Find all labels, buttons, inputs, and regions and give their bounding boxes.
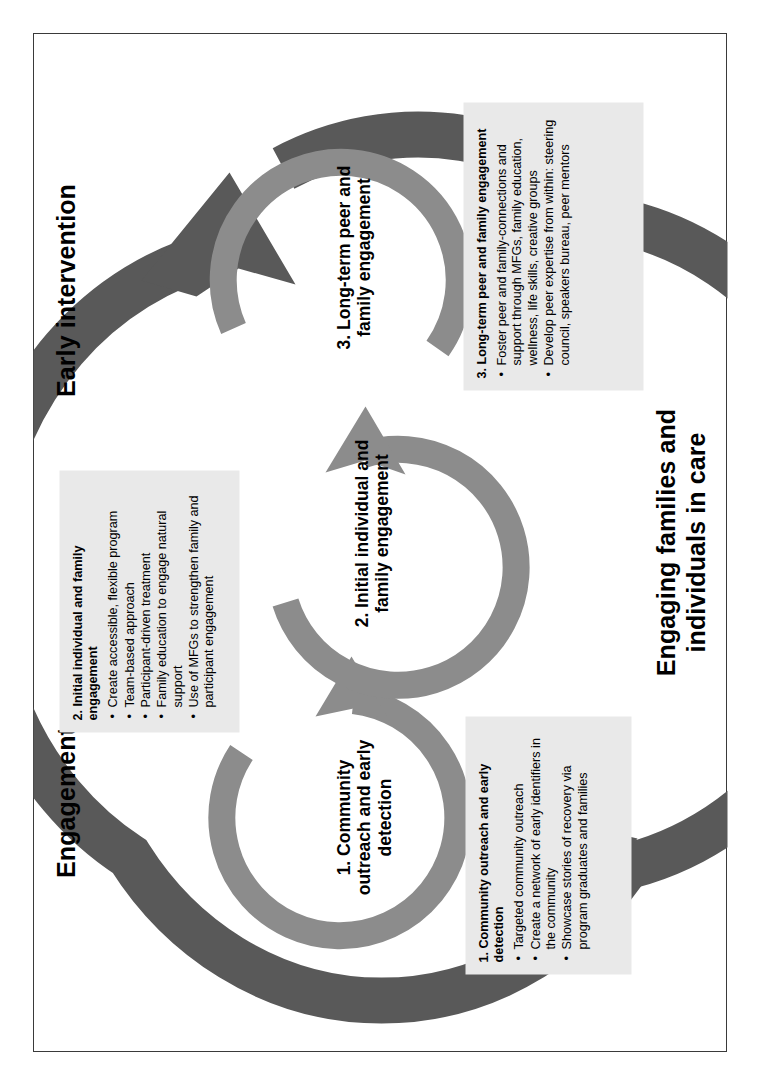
- heading-engaging-families-in-care: Engaging families and individuals in car…: [651, 362, 710, 722]
- detail-box-3-title: 3. Long-term peer and family engagement: [474, 114, 489, 378]
- diagram-frame: Engagement Early intervention Engaging f…: [33, 33, 727, 1052]
- ring-label-long-term-peer: 3. Long-term peer and family engagement: [333, 162, 374, 352]
- detail-box-community-outreach: 1. Community outreach and early detectio…: [465, 716, 631, 974]
- list-item: Participant-driven treatment: [138, 482, 153, 707]
- list-item: Showcase stories of recovery via program…: [559, 728, 590, 949]
- list-item: Create accessible, flexible program: [105, 482, 120, 707]
- diagram-canvas: Engagement Early intervention Engaging f…: [33, 33, 727, 1052]
- detail-box-3-bullets: Foster peer and family-connections and s…: [494, 114, 572, 378]
- list-item: Create a network of early identifiers in…: [528, 728, 559, 949]
- detail-box-initial-engagement: 2. Initial individual and family engagem…: [59, 470, 239, 732]
- list-item: Develop peer expertise from within: stee…: [541, 114, 572, 365]
- detail-box-1-bullets: Targeted community outreach Create a net…: [511, 728, 590, 962]
- list-item: Team-based approach: [122, 482, 137, 707]
- ring-label-community-outreach: 1. Community outreach and early detectio…: [333, 722, 394, 912]
- ring-label-initial-engagement: 2. Initial individual and family engagem…: [351, 438, 392, 628]
- detail-box-2-bullets: Create accessible, flexible program Team…: [105, 482, 217, 720]
- list-item: Foster peer and family-connections and s…: [494, 114, 540, 365]
- inner-ring-2: [285, 406, 516, 685]
- detail-box-1-title: 1. Community outreach and early detectio…: [476, 728, 506, 962]
- list-item: Use of MFGs to strengthen family and par…: [186, 482, 217, 707]
- list-item: Family education to engage natural suppo…: [154, 482, 185, 707]
- detail-box-2-title: 2. Initial individual and family engagem…: [70, 482, 100, 720]
- rotated-diagram-stage: Engagement Early intervention Engaging f…: [33, 33, 727, 1052]
- heading-early-intervention: Early intervention: [51, 140, 81, 440]
- detail-box-long-term-peer: 3. Long-term peer and family engagement …: [463, 102, 643, 390]
- list-item: Targeted community outreach: [511, 728, 526, 949]
